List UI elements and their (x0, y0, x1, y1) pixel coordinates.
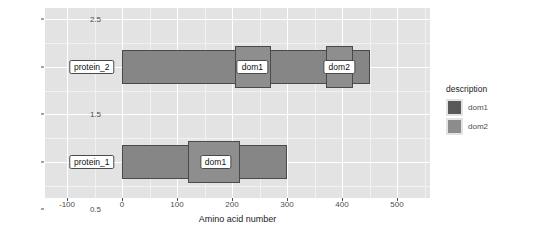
gridline (315, 8, 316, 198)
gridline (425, 8, 426, 198)
gridline (95, 8, 96, 198)
x-axis-tick-mark (342, 198, 343, 201)
x-axis-tick-mark (232, 198, 233, 201)
legend-swatch-dom1 (448, 101, 461, 114)
y-axis-tick-mark (41, 19, 44, 20)
gridline (45, 138, 430, 139)
y-axis-tick-mark (41, 161, 44, 162)
gridline (45, 43, 430, 44)
gridline (287, 8, 288, 198)
y-axis-tick-mark (41, 66, 44, 67)
x-axis-tick-mark (67, 198, 68, 201)
protein-name-label: protein_2 (69, 60, 114, 74)
x-axis-tick-label: 100 (170, 200, 183, 209)
legend-title: description (446, 84, 532, 94)
legend-label-dom1: dom1 (468, 103, 488, 112)
domain-label: dom2 (324, 60, 355, 74)
x-axis-label: Amino acid number (45, 214, 430, 224)
x-axis-tick-label: 0 (120, 200, 124, 209)
x-axis-tick-label: 200 (225, 200, 238, 209)
gridline (45, 19, 430, 20)
x-axis-tick-label: 400 (335, 200, 348, 209)
gridline (342, 8, 343, 198)
chart-root: 0.51.01.52.02.5-1000100200300400500dom1d… (0, 0, 537, 242)
legend: description dom1 dom2 (446, 84, 532, 137)
legend-key-dom1 (446, 99, 463, 116)
x-axis-tick-mark (287, 198, 288, 201)
legend-item-dom1[interactable]: dom1 (446, 99, 532, 116)
legend-key-dom2 (446, 118, 463, 135)
x-axis-tick-label: 300 (280, 200, 293, 209)
y-axis-tick-mark (41, 209, 44, 210)
x-axis-tick-label: -100 (59, 200, 75, 209)
x-axis-tick-mark (122, 198, 123, 201)
domain-label: dom1 (200, 155, 231, 169)
y-axis-tick-label: 1.5 (41, 110, 101, 119)
domain-label: dom1 (237, 60, 268, 74)
y-axis-tick-mark (41, 114, 44, 115)
x-axis-tick-label: 500 (390, 200, 403, 209)
gridline (45, 186, 430, 187)
legend-label-dom2: dom2 (468, 122, 488, 131)
y-axis-tick-label: 2.5 (41, 15, 101, 24)
gridline (45, 91, 430, 92)
gridline (397, 8, 398, 198)
legend-swatch-dom2 (448, 120, 461, 133)
protein-name-label: protein_1 (69, 155, 114, 169)
x-axis-tick-mark (177, 198, 178, 201)
gridline (67, 8, 68, 198)
x-axis-tick-mark (397, 198, 398, 201)
gridline (370, 8, 371, 198)
legend-item-dom2[interactable]: dom2 (446, 118, 532, 135)
gridline (45, 114, 430, 115)
